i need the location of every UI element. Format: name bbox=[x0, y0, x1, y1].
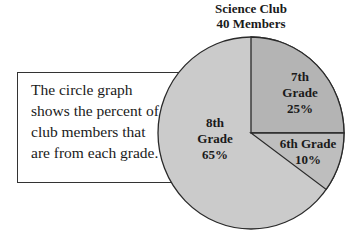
label-7th-grade: 7th Grade 25% bbox=[272, 69, 328, 117]
label-7th-line2: Grade bbox=[272, 85, 328, 101]
label-6th-grade: 6th Grade 10% bbox=[272, 136, 344, 168]
label-8th-line1: 8th bbox=[189, 115, 241, 131]
label-7th-line3: 25% bbox=[272, 101, 328, 117]
info-callout-text: The circle graph shows the percent of cl… bbox=[31, 79, 161, 163]
label-6th-line2: 10% bbox=[272, 152, 344, 168]
label-6th-line1: 6th Grade bbox=[272, 136, 344, 152]
label-7th-line1: 7th bbox=[272, 69, 328, 85]
label-8th-line2: Grade bbox=[189, 131, 241, 147]
label-8th-line3: 65% bbox=[189, 147, 241, 163]
label-8th-grade: 8th Grade 65% bbox=[189, 115, 241, 163]
